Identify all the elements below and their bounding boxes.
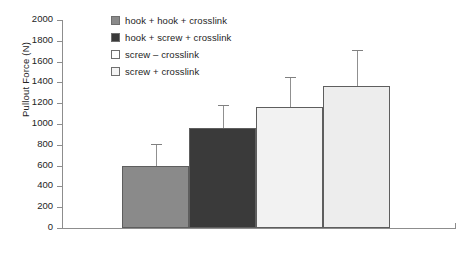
x-axis-end-cap	[455, 223, 456, 229]
y-axis-tick-label: 1600	[32, 55, 53, 66]
y-axis-tick-mark	[57, 207, 62, 208]
y-axis-tick: 0	[4, 228, 62, 229]
y-axis-tick-mark	[57, 186, 62, 187]
error-bar-cap	[151, 144, 162, 145]
legend-item-label: hook + hook + crosslink	[125, 15, 227, 26]
y-axis-tick-mark	[57, 145, 62, 146]
legend-item: screw + crosslink	[111, 64, 281, 79]
legend-item-label: hook + screw + crosslink	[125, 32, 231, 43]
y-axis-tick: 1600	[4, 62, 62, 63]
y-axis-tick-label: 200	[37, 200, 53, 211]
bar	[256, 107, 323, 228]
y-axis-tick: 200	[4, 207, 62, 208]
error-bar-cap	[285, 77, 296, 78]
y-axis-tick-mark	[57, 82, 62, 83]
legend-swatch-icon	[111, 50, 120, 59]
y-axis-tick: 2000	[4, 20, 62, 21]
y-axis-tick-mark	[57, 62, 62, 63]
bar-chart-figure: Pullout Force (N) 2000180016001400120010…	[0, 0, 471, 262]
y-axis-tick: 1200	[4, 103, 62, 104]
y-axis-tick-label: 400	[37, 179, 53, 190]
y-axis-tick-mark	[57, 20, 62, 21]
legend-swatch-icon	[111, 67, 120, 76]
y-axis-tick: 800	[4, 145, 62, 146]
bar	[323, 86, 390, 228]
legend-item: screw – crosslink	[111, 47, 281, 62]
error-bar-cap	[218, 105, 229, 106]
y-axis-tick-mark	[57, 103, 62, 104]
chart-legend: hook + hook + crosslinkhook + screw + cr…	[111, 13, 281, 81]
y-axis-tick-mark	[57, 41, 62, 42]
legend-item: hook + screw + crosslink	[111, 30, 281, 45]
legend-item: hook + hook + crosslink	[111, 13, 281, 28]
y-axis-tick-label: 1200	[32, 96, 53, 107]
y-axis-tick-label: 600	[37, 159, 53, 170]
y-axis-tick-mark	[57, 124, 62, 125]
y-axis-tick-label: 1400	[32, 75, 53, 86]
y-axis-tick-mark	[57, 166, 62, 167]
y-axis-tick: 1400	[4, 82, 62, 83]
x-axis-line	[62, 228, 456, 229]
legend-item-label: screw + crosslink	[125, 66, 199, 77]
y-axis-tick: 400	[4, 186, 62, 187]
y-axis-line	[62, 20, 63, 229]
legend-swatch-icon	[111, 16, 120, 25]
legend-item-label: screw – crosslink	[125, 49, 199, 60]
error-bar-stem	[357, 50, 358, 86]
error-bar-cap	[352, 50, 363, 51]
bar	[189, 128, 256, 228]
y-axis-tick-mark	[57, 228, 62, 229]
y-axis-tick: 1800	[4, 41, 62, 42]
y-axis-tick-label: 1800	[32, 34, 53, 45]
y-axis-tick-label: 1000	[32, 117, 53, 128]
y-axis-tick-label: 0	[48, 221, 53, 232]
y-axis-tick-label: 2000	[32, 13, 53, 24]
legend-swatch-icon	[111, 33, 120, 42]
y-axis-tick: 1000	[4, 124, 62, 125]
error-bar-stem	[156, 144, 157, 166]
error-bar-stem	[290, 77, 291, 107]
y-axis-tick-label: 800	[37, 138, 53, 149]
error-bar-stem	[223, 105, 224, 128]
bar	[122, 166, 189, 228]
y-axis-tick: 600	[4, 166, 62, 167]
